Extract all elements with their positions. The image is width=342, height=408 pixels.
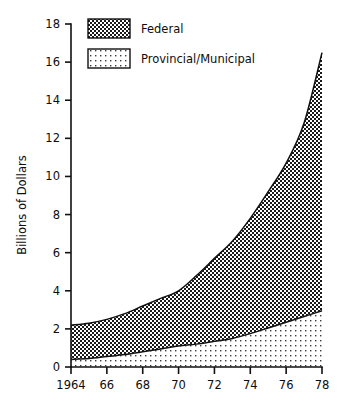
x-tick-label: 76 — [279, 378, 294, 392]
chart-container: 024681012141618 196466687072747678 Billi… — [0, 0, 342, 408]
y-tick-label: 18 — [45, 17, 60, 31]
x-tick-label: 1964 — [56, 378, 85, 392]
legend-swatch-provincial-municipal — [88, 49, 130, 68]
y-tick-label: 12 — [45, 131, 60, 145]
y-tick-label: 4 — [53, 284, 60, 298]
x-tick-label: 70 — [171, 378, 186, 392]
x-tick-label: 66 — [100, 378, 115, 392]
x-tick-label: 72 — [207, 378, 222, 392]
area-chart: 024681012141618 196466687072747678 Billi… — [0, 0, 342, 408]
legend-label-provincial-municipal: Provincial/Municipal — [141, 52, 255, 66]
y-axis-title: Billions of Dollars — [15, 155, 29, 254]
legend-item-provincial-municipal: Provincial/Municipal — [88, 49, 255, 68]
y-tick-label: 0 — [53, 360, 60, 374]
legend-label-federal: Federal — [141, 22, 183, 36]
y-tick-label: 16 — [45, 55, 60, 69]
y-tick-label: 8 — [53, 208, 60, 222]
x-tick-label: 74 — [243, 378, 258, 392]
y-tick-label: 14 — [45, 93, 60, 107]
y-tick-label: 2 — [53, 322, 60, 336]
x-tick-label: 78 — [315, 378, 330, 392]
y-tick-label: 10 — [45, 169, 60, 183]
y-tick-label: 6 — [53, 246, 60, 260]
x-tick-label: 68 — [135, 378, 150, 392]
legend-swatch-federal — [88, 19, 130, 38]
